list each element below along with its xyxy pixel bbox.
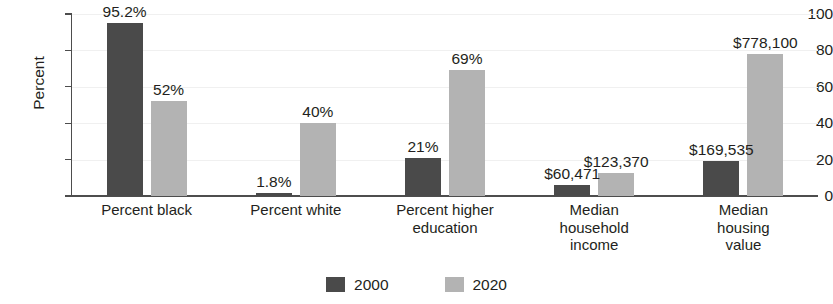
bar-2020-1 (151, 101, 187, 196)
chart-legend: 20002020 (0, 277, 833, 293)
legend-item-2020[interactable]: 2020 (445, 277, 507, 293)
legend-swatch-icon (445, 277, 464, 292)
bar-2020-5 (747, 54, 783, 196)
bar-2020-3 (449, 70, 485, 196)
x-axis-category-label: Medianhousingvalue (668, 201, 818, 254)
legend-item-2000[interactable]: 2000 (326, 277, 388, 293)
x-axis-category-label: Percent black (72, 201, 222, 219)
bar-value-label: $123,370 (556, 154, 676, 170)
x-axis-label-line: Percent higher (370, 201, 520, 219)
bar-2000-2 (256, 193, 292, 196)
x-axis-category-label: Medianhouseholdincome (519, 201, 669, 254)
bar-chart: Percent 020406080100 95.2%52%1.8%40%21%6… (0, 0, 833, 304)
bar-value-label: $778,100 (705, 35, 825, 51)
bar-value-label: 52% (109, 82, 229, 98)
x-axis-category-label: Percent highereducation (370, 201, 520, 236)
x-axis-label-line: housing (668, 219, 818, 237)
x-axis-label-line: Percent white (221, 201, 371, 219)
x-axis-category-label: Percent white (221, 201, 371, 219)
bar-value-label: 1.8% (214, 174, 334, 190)
bar-value-label: $169,535 (661, 142, 781, 158)
bar-value-label: 95.2% (65, 4, 185, 20)
x-axis-label-line: income (519, 236, 669, 254)
legend-label: 2000 (354, 277, 388, 293)
x-axis-label-line: education (370, 219, 520, 237)
bar-value-label: 40% (258, 104, 378, 120)
x-axis-label-line: Median (519, 201, 669, 219)
bar-2000-5 (703, 161, 739, 196)
x-axis-label-line: Percent black (72, 201, 222, 219)
bar-2000-1 (107, 23, 143, 196)
bar-2000-4 (554, 185, 590, 196)
x-axis-label-line: household (519, 219, 669, 237)
legend-label: 2020 (473, 277, 507, 293)
legend-swatch-icon (326, 277, 345, 292)
bar-value-label: 69% (407, 51, 527, 67)
x-axis-label-line: value (668, 236, 818, 254)
bar-2000-3 (405, 158, 441, 196)
x-axis-label-line: Median (668, 201, 818, 219)
bar-value-label: 21% (363, 139, 483, 155)
y-axis-title: Percent (30, 23, 48, 143)
